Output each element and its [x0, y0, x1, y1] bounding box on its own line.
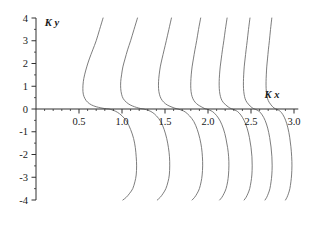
y-tick-label: -2 [19, 149, 28, 160]
x-axis-label: K x [264, 89, 280, 100]
y-tick-label: -3 [19, 172, 28, 183]
y-axis-label: K y [44, 17, 60, 28]
plot-background [0, 0, 312, 226]
y-tick-label: 3 [23, 35, 28, 46]
x-tick-label: 0.5 [72, 116, 85, 127]
y-tick-label: -4 [19, 195, 28, 206]
plot-figure: 0.51.01.52.02.53.0 -4-3-2-101234 K x K y [0, 0, 312, 226]
y-tick-label: 1 [23, 81, 28, 92]
x-tick-label: 2.5 [244, 116, 257, 127]
x-tick-label: 1.0 [115, 116, 128, 127]
x-tick-label: 3.0 [287, 116, 300, 127]
y-tick-label: 2 [23, 58, 28, 69]
x-tick-label: 1.5 [158, 116, 171, 127]
y-tick-label: 0 [23, 104, 28, 115]
y-tick-label: 4 [23, 13, 29, 24]
x-tick-label: 2.0 [201, 116, 214, 127]
y-tick-label: -1 [19, 126, 28, 137]
